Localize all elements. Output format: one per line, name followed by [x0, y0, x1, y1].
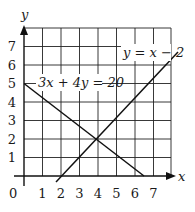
svg-text:4: 4 [8, 95, 16, 110]
svg-text:4: 4 [94, 186, 102, 201]
svg-text:6: 6 [131, 186, 139, 201]
origin-label: 0 [9, 186, 17, 201]
svg-text:3: 3 [75, 186, 83, 201]
svg-text:1: 1 [38, 186, 46, 201]
y-axis-arrow-icon [20, 25, 28, 35]
svg-text:2: 2 [57, 186, 65, 201]
label-line-3x-4y-20: 3x + 4y = 20 [38, 75, 124, 90]
label-line-y-x-2: y = x − 2 [122, 45, 184, 60]
x-axis-label: x [178, 169, 186, 184]
svg-text:3: 3 [8, 113, 16, 128]
svg-text:1: 1 [8, 150, 16, 165]
graph: 3x + 4y = 20 y = x − 2 y x 0 1 2 3 4 5 6… [0, 0, 195, 212]
line-y-x-2 [56, 52, 178, 182]
x-tick-labels: 1 2 3 4 5 6 7 [38, 186, 157, 201]
svg-text:7: 7 [149, 186, 157, 201]
svg-text:5: 5 [8, 76, 16, 91]
line-3x-4y-20 [24, 84, 144, 177]
svg-text:5: 5 [112, 186, 120, 201]
svg-text:2: 2 [8, 132, 16, 147]
svg-text:6: 6 [8, 58, 16, 73]
svg-text:7: 7 [8, 39, 16, 54]
y-axis-label: y [20, 7, 29, 22]
y-tick-labels: 1 2 3 4 5 6 7 [8, 39, 16, 165]
